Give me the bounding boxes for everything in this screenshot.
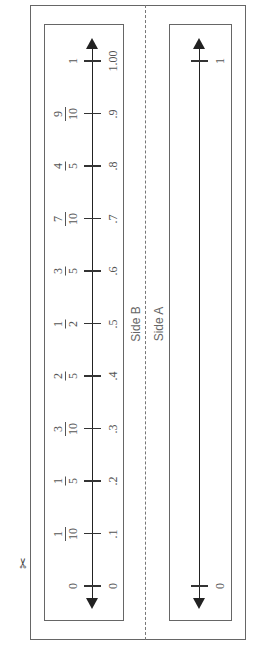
fold-line [145,5,146,640]
side-b-arrow-start-icon [86,598,98,609]
side-a-tick [191,60,208,61]
fraction-denominator: 10 [67,107,79,121]
side-b-fraction-label: 15 [49,477,79,486]
side-b-fraction-label: 310 [49,422,79,436]
fraction-numerator: 3 [52,425,64,433]
side-a-panel [169,24,232,621]
whole-label: 0 [66,583,80,589]
side-b-decimal-label: .6 [107,267,119,276]
side-b-arrow-end-icon [86,38,98,49]
fraction-denominator: 2 [67,320,79,328]
side-b-tick [84,270,101,271]
side-b-decimal-label: 1.00 [107,51,119,72]
side-b-decimal-label: .4 [107,372,119,381]
side-b-fraction-label: 710 [49,212,79,226]
side-b-tick [84,428,101,429]
side-b-decimal-label: .1 [107,529,119,538]
side-b-tick [84,323,101,324]
side-a-tick-label: 1 [214,58,226,64]
fraction-denominator: 10 [67,527,79,541]
side-b-fraction-label: 12 [49,319,79,328]
fraction-denominator: 10 [67,212,79,226]
side-b-fraction-label: 110 [49,527,79,541]
side-b-fraction-label: 0 [64,583,80,589]
side-b-fraction-label: 25 [49,372,79,381]
side-b-tick [84,60,101,61]
side-a-number-line [199,48,200,598]
fraction-denominator: 10 [67,422,79,436]
side-b-label: Side B [130,306,142,341]
side-b-tick [84,165,101,166]
fraction-numerator: 3 [52,267,64,275]
whole-label: 1 [66,58,80,64]
fraction-numerator: 1 [52,530,64,538]
side-b-tick [84,533,101,534]
side-b-tick [84,113,101,114]
side-b-fraction-label: 35 [49,267,79,276]
side-b-decimal-label: .8 [107,162,119,171]
side-b-decimal-label: .7 [107,214,119,223]
side-a-tick [191,585,208,586]
side-b-fraction-label: 1 [64,58,80,64]
side-b-fraction-label: 910 [49,107,79,121]
side-b-decimal-label: .3 [107,424,119,433]
fraction-denominator: 5 [67,162,79,170]
side-b-decimal-label: .9 [107,109,119,118]
side-a-arrow-end-icon [193,38,205,49]
fraction-denominator: 5 [67,372,79,380]
side-a-tick-label: 0 [214,583,226,589]
fraction-numerator: 4 [52,162,64,170]
fraction-numerator: 1 [52,320,64,328]
fraction-numerator: 1 [52,477,64,485]
side-b-decimal-label: 0 [107,583,119,589]
fraction-numerator: 9 [52,110,64,118]
side-b-tick [84,218,101,219]
fraction-denominator: 5 [67,477,79,485]
scissors-icon: ✂ [16,557,30,569]
fraction-numerator: 2 [52,372,64,380]
fraction-denominator: 5 [67,267,79,275]
fraction-numerator: 7 [52,215,64,223]
side-b-decimal-label: .5 [107,319,119,328]
side-b-tick [84,375,101,376]
side-b-fraction-label: 45 [49,162,79,171]
side-b-tick [84,480,101,481]
side-b-tick [84,585,101,586]
side-a-arrow-start-icon [193,598,205,609]
side-b-decimal-label: .2 [107,477,119,486]
side-a-label: Side A [153,307,165,342]
